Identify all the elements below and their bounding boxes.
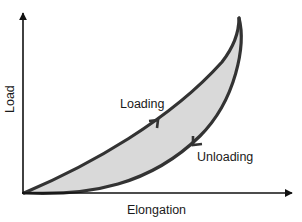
loading-label: Loading	[120, 97, 165, 111]
hysteresis-diagram: Loading Unloading Elongation Load	[0, 0, 302, 222]
unloading-label: Unloading	[197, 150, 253, 164]
x-axis-label: Elongation	[127, 203, 186, 217]
y-axis-label: Load	[3, 85, 17, 113]
